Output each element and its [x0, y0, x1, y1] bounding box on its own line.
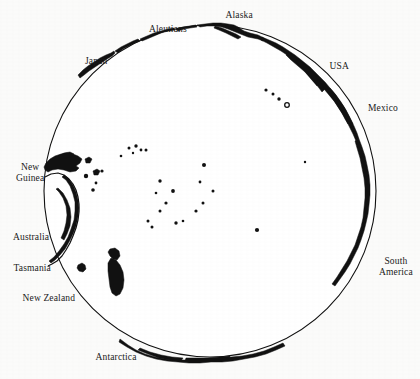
island-dot — [272, 93, 275, 96]
island-dot — [202, 163, 206, 167]
island-dot — [158, 179, 161, 182]
island-dot — [132, 152, 134, 154]
island-dot — [277, 97, 280, 100]
map-label-mexico: Mexico — [368, 103, 398, 114]
island-dot — [134, 144, 137, 147]
island-dot — [151, 226, 154, 229]
island-dot — [159, 210, 162, 213]
island-dot — [255, 228, 259, 232]
island-dot — [91, 188, 95, 192]
map-label-south-america: South America — [379, 256, 413, 277]
map-label-tasmania: Tasmania — [14, 263, 51, 274]
island-dot — [304, 161, 306, 163]
island-dot — [199, 181, 202, 184]
map-label-alaska: Alaska — [226, 10, 253, 21]
island-dot — [212, 190, 215, 193]
map-label-antarctica: Antarctica — [96, 352, 137, 363]
island-dot — [171, 189, 175, 193]
island-dot — [95, 182, 98, 185]
island-dot — [194, 209, 197, 212]
island-dot — [145, 149, 148, 152]
map-label-aleutians: Aleutians — [149, 24, 187, 35]
island-dot — [128, 147, 131, 150]
map-label-new-zealand: New Zealand — [23, 293, 76, 304]
map-label-japan: Japan — [85, 56, 107, 67]
island-dot — [264, 88, 267, 91]
island-dot — [147, 220, 150, 223]
island-dot — [202, 202, 205, 205]
island-dot — [182, 220, 185, 223]
island-dot — [174, 221, 177, 224]
map-label-new-guinea: New Guinea — [16, 162, 44, 183]
island-dot — [100, 169, 103, 172]
island-dot — [84, 174, 88, 178]
globe-svg — [0, 0, 420, 379]
pacific-ocean-map-figure: AlaskaAleutiansJapanUSAMexicoNew GuineaA… — [0, 0, 420, 379]
island-dot — [164, 201, 167, 204]
map-label-australia: Australia — [13, 232, 49, 243]
island-dot — [155, 192, 158, 195]
map-label-usa: USA — [330, 61, 349, 72]
island-dot — [140, 149, 143, 152]
island-dot — [120, 155, 123, 158]
